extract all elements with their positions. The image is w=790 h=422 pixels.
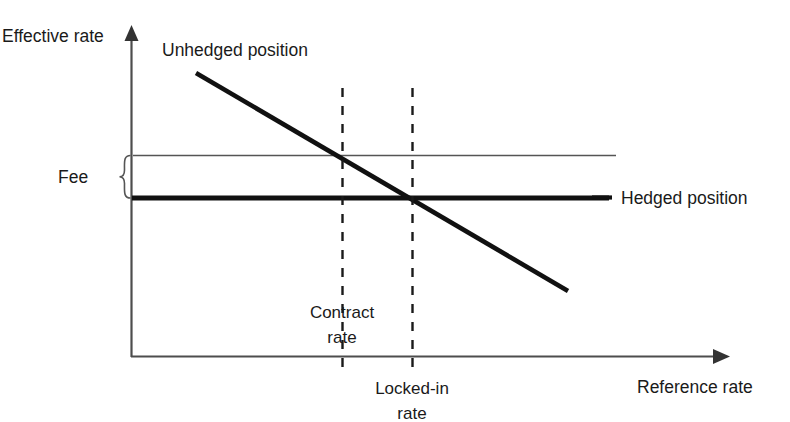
locked-in-rate-label-line1: Locked-in: [375, 379, 449, 398]
contract-rate-label-line1: Contract: [310, 303, 375, 322]
unhedged-position-label: Unhedged position: [162, 40, 308, 60]
figure-canvas: Effective rate Unhedged position Hedged …: [0, 0, 790, 422]
hedged-position-label: Hedged position: [621, 188, 747, 208]
x-axis-arrowhead: [713, 349, 730, 364]
series-unhedged-position-line: [196, 73, 568, 291]
fee-label: Fee: [58, 167, 88, 187]
hedging-payoff-diagram: Effective rate Unhedged position Hedged …: [0, 0, 790, 422]
y-axis-label: Effective rate: [2, 26, 104, 46]
x-axis-label: Reference rate: [637, 377, 753, 397]
fee-brace-icon: [120, 156, 131, 199]
y-axis-arrowhead: [125, 25, 139, 41]
contract-rate-label-line2: rate: [327, 328, 356, 347]
locked-in-rate-label-line2: rate: [397, 404, 426, 422]
